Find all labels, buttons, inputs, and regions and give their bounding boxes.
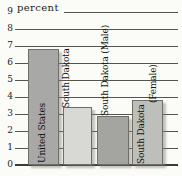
y-axis-tick-label-7: 7 <box>0 40 13 51</box>
bar-label-2: South Dakota <box>61 48 72 108</box>
y-axis-tick-label-4: 4 <box>0 91 13 102</box>
y-axis-title: percent <box>17 1 59 14</box>
bar-south-dakota-male <box>97 116 129 165</box>
y-axis-tick-label-2: 2 <box>0 125 13 136</box>
y-axis-tick-label-6: 6 <box>0 57 13 68</box>
bar-label-4-line-2: (Female) <box>148 64 159 103</box>
bar-south-dakota <box>63 107 92 165</box>
bar-chart: percent 9876543210United StatesSouth Dak… <box>0 0 182 176</box>
bar-label-3: South Dakota (Male) <box>100 25 111 116</box>
gridline-y-8 <box>15 29 178 30</box>
bar-label-4-line-1: South Dakota <box>136 104 147 164</box>
y-axis-tick-label-9: 9 <box>0 6 13 17</box>
y-axis-tick-label-0: 0 <box>0 159 13 170</box>
gridline-y-9 <box>64 12 178 13</box>
y-axis-tick-label-1: 1 <box>0 142 13 153</box>
bar-label-1: United States <box>37 103 48 163</box>
y-axis-tick-label-5: 5 <box>0 74 13 85</box>
y-axis-tick-label-3: 3 <box>0 108 13 119</box>
y-axis-tick-label-8: 8 <box>0 23 13 34</box>
gridline-y-7 <box>15 46 178 47</box>
